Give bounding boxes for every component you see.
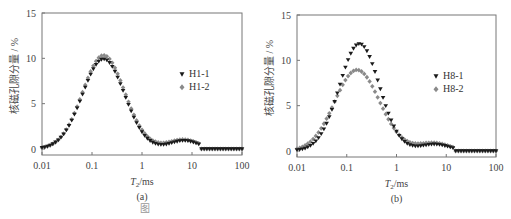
legend-item-h8-1: H8-1 — [434, 70, 464, 81]
data-point — [340, 74, 345, 78]
y-tick-label: 10 — [281, 55, 291, 66]
figure: 0.010.1110100051015核磁孔隙分量 / %T2/ms(a)H1-… — [0, 0, 511, 219]
data-point — [72, 113, 77, 117]
x-axis-label: T2/ms — [385, 178, 409, 191]
data-point — [383, 104, 388, 108]
x-axis-label: T2/ms — [130, 176, 154, 189]
data-point — [346, 74, 350, 79]
data-point — [370, 84, 374, 89]
data-point — [375, 79, 380, 83]
panel-label: (a) — [136, 191, 147, 203]
legend-label: H1-2 — [189, 81, 210, 92]
data-point — [335, 91, 340, 95]
data-point — [378, 87, 383, 91]
data-point — [343, 66, 348, 70]
y-axis-label: 核磁孔隙分量 / % — [263, 40, 275, 116]
data-point — [348, 52, 353, 56]
y-tick-label: 10 — [26, 53, 36, 64]
data-point — [80, 93, 85, 97]
y-tick-label: 15 — [26, 8, 36, 19]
plot-area — [297, 15, 496, 157]
data-point — [78, 100, 83, 104]
chart-panel-b: 0.010.1110100051015核磁孔隙分量 / %T2/ms(b)H8-… — [263, 10, 504, 206]
data-point — [86, 79, 91, 83]
data-point — [346, 58, 351, 62]
data-point — [375, 95, 379, 100]
data-point — [64, 129, 69, 133]
x-tick-label: 0.1 — [341, 162, 354, 173]
data-point — [75, 106, 80, 110]
x-tick-label: 100 — [235, 160, 250, 171]
legend-label: H8-1 — [443, 70, 464, 81]
x-tick-label: 10 — [187, 160, 197, 171]
data-point — [367, 55, 372, 59]
data-point — [389, 119, 394, 123]
y-tick-label: 0 — [31, 144, 36, 155]
figure-caption: 图 — [140, 203, 150, 214]
data-point — [367, 79, 371, 84]
data-point — [373, 70, 378, 74]
data-point — [69, 119, 74, 123]
legend-label: H8-2 — [443, 83, 464, 94]
x-tick-label: 100 — [489, 162, 504, 173]
data-point — [129, 110, 134, 114]
legend-marker-icon — [180, 84, 185, 90]
data-point — [115, 76, 120, 80]
series-h8-2 — [295, 68, 498, 154]
data-point — [61, 132, 66, 136]
legend-marker-icon — [434, 86, 439, 92]
data-point — [373, 89, 377, 94]
panel-label: (b) — [391, 193, 403, 205]
data-point — [381, 96, 386, 100]
x-tick-label: 0.01 — [288, 162, 306, 173]
data-point — [378, 101, 382, 106]
chart-panel-a: 0.010.1110100051015核磁孔隙分量 / %T2/ms(a)H1-… — [8, 8, 250, 204]
x-tick-label: 1 — [140, 160, 145, 171]
data-point — [123, 96, 128, 100]
y-tick-label: 5 — [31, 98, 36, 109]
y-tick-label: 5 — [286, 100, 291, 111]
data-point — [381, 106, 385, 111]
legend-label: H1-1 — [189, 68, 210, 79]
y-axis-label: 核磁孔隙分量 / % — [8, 38, 20, 114]
x-tick-label: 10 — [441, 162, 451, 173]
data-point — [67, 124, 72, 128]
data-point — [351, 47, 356, 51]
x-tick-label: 1 — [394, 162, 399, 173]
data-point — [343, 78, 347, 83]
y-tick-label: 15 — [281, 10, 291, 21]
data-point — [365, 75, 369, 80]
data-point — [88, 73, 93, 77]
legend-marker-icon — [434, 74, 439, 79]
legend-item-h8-2: H8-2 — [434, 83, 464, 94]
y-tick-label: 0 — [286, 146, 291, 157]
data-point — [196, 142, 201, 146]
data-point — [118, 82, 123, 86]
data-point — [330, 108, 335, 112]
data-point — [319, 132, 324, 136]
series-h1-2 — [40, 53, 244, 151]
series-h8-1 — [295, 42, 499, 153]
data-point — [126, 103, 131, 107]
data-point — [115, 71, 119, 76]
legend-item-h1-2: H1-2 — [180, 81, 210, 92]
data-point — [132, 116, 137, 120]
data-point — [370, 62, 375, 66]
data-point — [121, 89, 126, 93]
x-tick-label: 0.01 — [33, 160, 51, 171]
data-point — [83, 86, 88, 90]
x-tick-label: 0.1 — [86, 160, 99, 171]
data-point — [362, 45, 367, 49]
data-point — [365, 49, 370, 53]
legend-item-h1-1: H1-1 — [180, 68, 210, 79]
legend-marker-icon — [180, 72, 185, 77]
series-h1-1 — [40, 57, 245, 151]
data-point — [327, 111, 331, 116]
